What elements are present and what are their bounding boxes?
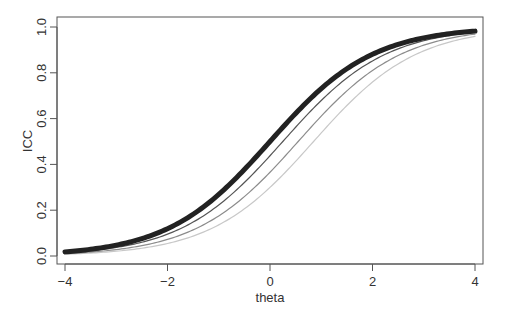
y-tick-label: 0.4 xyxy=(34,155,49,173)
x-tick-label: 4 xyxy=(471,274,478,289)
x-tick-label: 0 xyxy=(266,274,273,289)
y-tick-label: 1.0 xyxy=(34,18,49,36)
x-tick-label: −2 xyxy=(160,274,175,289)
x-tick-label: 2 xyxy=(369,274,376,289)
y-tick-label: 0.2 xyxy=(34,201,49,219)
curve-1-line xyxy=(65,31,475,252)
y-axis: 0.00.20.40.60.81.0 xyxy=(34,18,57,265)
y-tick-label: 0.8 xyxy=(34,64,49,82)
x-tick-label: −4 xyxy=(58,274,73,289)
y-axis-title: ICC xyxy=(20,130,35,152)
icc-chart: −4−2024 0.00.20.40.60.81.0 theta ICC xyxy=(0,0,505,310)
x-axis-title: theta xyxy=(256,290,286,305)
curves-group xyxy=(65,31,475,254)
x-axis: −4−2024 xyxy=(58,264,479,289)
y-tick-label: 0.6 xyxy=(34,110,49,128)
curve-4-line xyxy=(65,36,475,254)
y-tick-label: 0.0 xyxy=(34,247,49,265)
